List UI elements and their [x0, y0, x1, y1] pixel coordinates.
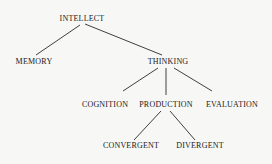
node-evaluation: EVALUATION [206, 101, 258, 109]
edge-thinking-evaluation [174, 68, 212, 91]
node-divergent: DIVERGENT [176, 142, 224, 150]
node-convergent: CONVERGENT [103, 142, 159, 150]
tree-edges [0, 0, 272, 164]
node-cognition: COGNITION [82, 101, 128, 109]
node-production: PRODUCTION [139, 101, 193, 109]
node-memory: MEMORY [16, 58, 53, 66]
edge-intellect-thinking [85, 24, 162, 55]
edge-production-convergent [134, 111, 161, 140]
edge-intellect-memory [36, 25, 80, 55]
edge-production-divergent [170, 111, 195, 140]
node-thinking: THINKING [148, 58, 189, 66]
node-intellect: INTELLECT [60, 15, 105, 23]
edge-thinking-cognition [123, 68, 158, 91]
